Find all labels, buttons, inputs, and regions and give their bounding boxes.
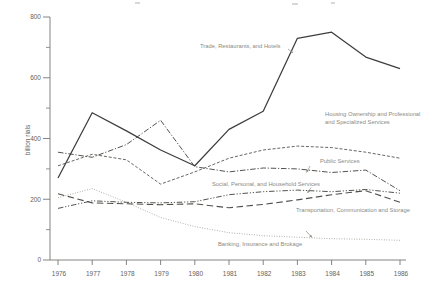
y-tick-label: 800 — [30, 13, 41, 20]
x-tick-label: 1984 — [325, 270, 340, 277]
x-tick-label: 1978 — [120, 270, 135, 277]
series-annotation-label: Transportation, Communication and Storag… — [296, 207, 410, 213]
x-tick-label: 1983 — [291, 270, 306, 277]
series-annotation-label: Housing Ownership and Professional — [325, 111, 420, 117]
x-tick-label: 1982 — [257, 270, 272, 277]
line-chart-svg: 0200400600800197619771978197919801981198… — [0, 0, 426, 296]
y-tick-label: 400 — [30, 135, 41, 142]
series-line-4 — [58, 146, 400, 184]
series-line-1 — [58, 191, 400, 208]
y-tick-label: 0 — [37, 256, 41, 263]
y-axis-title: billion rials — [24, 124, 31, 155]
series-annotation-label: Public Services — [320, 158, 360, 164]
series-line-0 — [58, 189, 400, 241]
x-tick-label: 1986 — [394, 270, 409, 277]
y-tick-label: 600 — [30, 74, 41, 81]
x-tick-label: 1981 — [223, 270, 238, 277]
series-line-5 — [58, 32, 400, 178]
series-annotation-label: and Specialized Services — [325, 119, 390, 125]
y-tick-label: 200 — [30, 196, 41, 203]
series-annotation-label: Banking, Insurance and Brokage — [218, 241, 302, 247]
x-tick-label: 1976 — [52, 270, 67, 277]
x-tick-label: 1979 — [154, 270, 169, 277]
chart-figure: 0200400600800197619771978197919801981198… — [0, 0, 426, 296]
x-tick-label: 1985 — [360, 270, 375, 277]
series-annotation-label: Social, Personal, and Household Services — [212, 181, 320, 187]
x-tick-label: 1977 — [86, 270, 101, 277]
series-annotation-label: Trade, Restaurants, and Hotels — [200, 43, 280, 49]
x-tick-label: 1980 — [189, 270, 204, 277]
